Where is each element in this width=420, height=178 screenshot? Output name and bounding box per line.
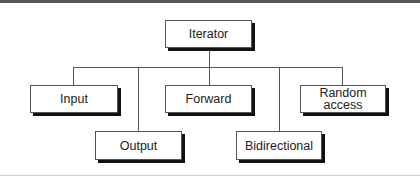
connector-random-access: [342, 67, 343, 85]
connector-bidirectional: [279, 67, 280, 131]
connector-output: [138, 67, 139, 131]
node-label: Bidirectional: [245, 140, 313, 152]
top-rule: [0, 0, 420, 3]
node-forward: Forward: [165, 85, 252, 113]
connector-input: [73, 67, 74, 85]
connector-horizontal-bus: [73, 67, 343, 68]
node-input: Input: [30, 85, 118, 113]
node-label: Input: [60, 93, 88, 105]
node-label: Forward: [186, 93, 232, 105]
connector-root-down: [209, 48, 210, 67]
connector-forward: [209, 67, 210, 85]
node-bidirectional: Bidirectional: [236, 131, 322, 160]
node-iterator: Iterator: [165, 20, 252, 48]
node-output: Output: [95, 131, 182, 160]
node-label: Random access: [319, 87, 366, 111]
node-random-access: Random access: [300, 85, 386, 113]
node-label: Output: [120, 140, 158, 152]
node-label: Iterator: [189, 28, 229, 40]
bottom-rule: [0, 175, 420, 176]
